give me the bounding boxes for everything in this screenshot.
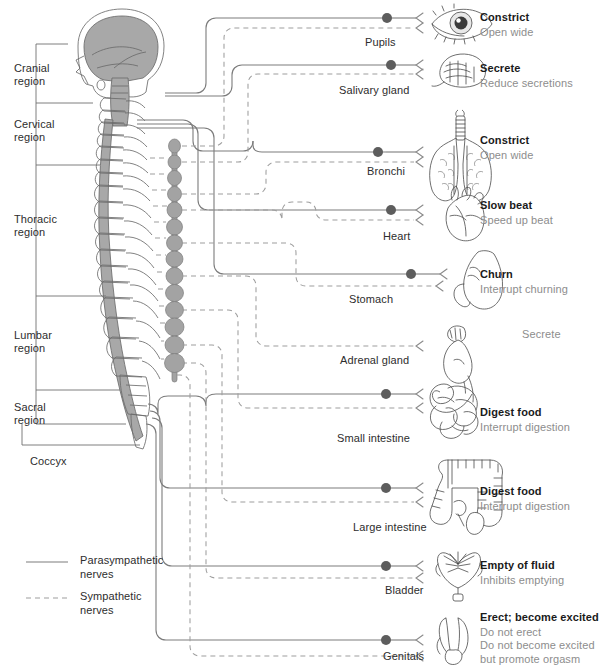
effect-sympathetic-adrenal-gland: Secrete — [522, 328, 561, 341]
organ-label-bronchi: Bronchi — [367, 165, 405, 178]
organ-label-salivary-gland: Salivary gland — [339, 84, 410, 97]
organ-label-bladder: Bladder — [385, 584, 424, 597]
effect-sympathetic-salivary-gland: Reduce secretions — [480, 77, 573, 90]
effect-parasympathetic-salivary-gland: Secrete — [480, 62, 520, 75]
organ-label-heart: Heart — [383, 230, 410, 243]
effect-parasympathetic-genitals: Erect; become excited — [480, 611, 599, 624]
region-label-thoracic: Thoracic region — [14, 213, 57, 240]
organ-label-pupils: Pupils — [365, 36, 396, 49]
region-label-lumbar: Lumbar region — [14, 329, 52, 356]
effect-sympathetic-large-intestine: Interrupt digestion — [480, 500, 570, 513]
effect-sympathetic-bladder: Inhibits emptying — [480, 574, 564, 587]
region-label-cervical: Cervical region — [14, 118, 55, 145]
effect-parasympathetic-stomach: Churn — [480, 268, 513, 281]
legend-label-parasympathetic: Parasympathetic nerves — [80, 554, 163, 582]
effect-sympathetic-heart: Speed up beat — [480, 214, 553, 227]
organ-label-large-intestine: Large intestine — [353, 521, 427, 534]
region-label-sacral: Sacral region — [14, 401, 46, 428]
effect-parasympathetic-pupils: Constrict — [480, 11, 529, 24]
effect-parasympathetic-bladder: Empty of fluid — [480, 559, 555, 572]
organ-label-adrenal-gland: Adrenal gland — [340, 354, 409, 367]
region-label-coccyx: Coccyx — [30, 455, 67, 468]
effect-parasympathetic-bronchi: Constrict — [480, 134, 529, 147]
effect-sympathetic-bronchi: Open wide — [480, 149, 534, 162]
effect-sympathetic-genitals: Do not erect Do not become excited but p… — [480, 626, 595, 666]
legend-label-sympathetic: Sympathetic nerves — [80, 590, 142, 618]
effect-parasympathetic-small-intestine: Digest food — [480, 406, 542, 419]
organ-label-small-intestine: Small intestine — [337, 432, 410, 445]
region-label-cranial: Cranial region — [14, 62, 50, 89]
effect-parasympathetic-large-intestine: Digest food — [480, 485, 542, 498]
effect-sympathetic-pupils: Open wide — [480, 26, 534, 39]
organ-label-genitals: Genitals — [383, 650, 424, 663]
organ-label-stomach: Stomach — [349, 293, 393, 306]
effect-parasympathetic-heart: Slow beat — [480, 199, 532, 212]
diagram-canvas: Cranial region Cervical region Thoracic … — [0, 0, 601, 669]
effect-sympathetic-stomach: Interrupt churning — [480, 283, 568, 296]
effect-sympathetic-small-intestine: Interrupt digestion — [480, 421, 570, 434]
